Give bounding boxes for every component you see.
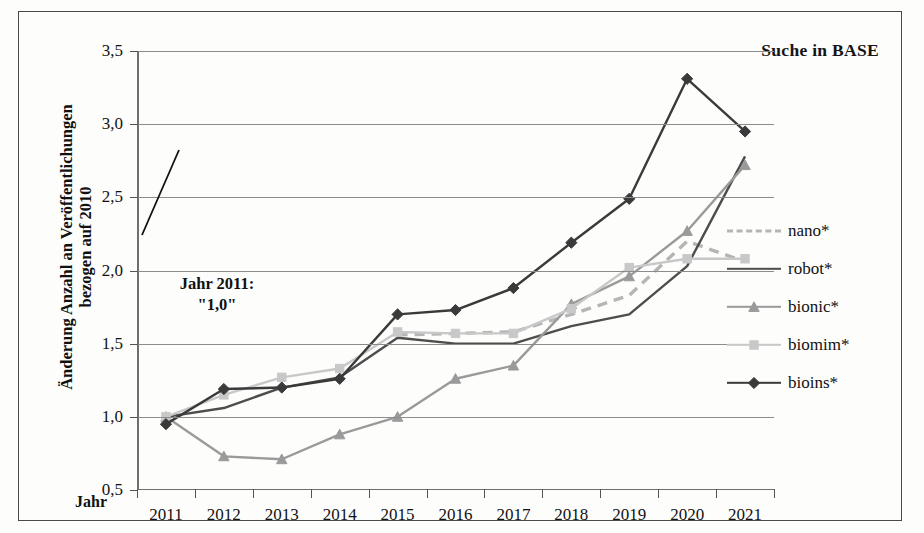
legend-marker-triangle-icon bbox=[746, 299, 762, 315]
x-tick-label: 2018 bbox=[554, 505, 588, 525]
x-tick-mark bbox=[253, 489, 254, 498]
data-point-marker bbox=[393, 328, 401, 336]
legend-marker-square-icon bbox=[746, 337, 762, 353]
x-tick-mark bbox=[542, 489, 543, 498]
x-tick-mark bbox=[137, 489, 138, 498]
data-point-marker bbox=[335, 364, 343, 372]
y-tick-mark bbox=[130, 417, 138, 418]
legend-label: nano* bbox=[781, 221, 830, 241]
data-point-marker bbox=[451, 329, 459, 337]
y-tick-mark bbox=[130, 51, 138, 52]
x-tick-label: 2014 bbox=[323, 505, 357, 525]
legend-swatch-icon bbox=[727, 260, 781, 278]
data-point-marker bbox=[750, 341, 758, 349]
legend-swatch-icon bbox=[727, 374, 781, 392]
y-tick-mark bbox=[130, 124, 138, 125]
chart-frame: Suche in BASE Änderung Anzahl an Veröffe… bbox=[18, 11, 902, 521]
y-tick-label: 0,5 bbox=[79, 480, 123, 500]
gridline bbox=[137, 271, 774, 272]
x-tick-label: 2011 bbox=[149, 505, 182, 525]
legend-label: robot* bbox=[781, 259, 832, 279]
legend-item-robot[interactable]: robot* bbox=[727, 250, 877, 288]
y-tick-label: 1,0 bbox=[79, 407, 123, 427]
y-tick-label: 2,0 bbox=[79, 261, 123, 281]
chart-title: Suche in BASE bbox=[761, 40, 879, 61]
x-tick-label: 2012 bbox=[207, 505, 241, 525]
y-tick-mark bbox=[130, 344, 138, 345]
data-point-marker bbox=[276, 382, 287, 393]
x-tick-mark bbox=[658, 489, 659, 498]
data-point-marker bbox=[278, 373, 286, 381]
data-point-marker bbox=[748, 377, 759, 388]
x-tick-label: 2016 bbox=[439, 505, 473, 525]
x-tick-mark bbox=[716, 489, 717, 498]
gridline bbox=[137, 51, 774, 52]
x-tick-mark bbox=[774, 489, 775, 498]
legend: nano*robot*bionic*biomim*bioins* bbox=[727, 212, 877, 402]
data-point-marker bbox=[749, 302, 759, 312]
y-axis-title-line1: Änderung Anzahl an Veröffentlichungen bbox=[57, 104, 76, 390]
series-biomim bbox=[162, 255, 749, 421]
x-tick-mark bbox=[427, 489, 428, 498]
x-tick-mark bbox=[195, 489, 196, 498]
y-tick-mark bbox=[130, 197, 138, 198]
x-axis-line bbox=[137, 489, 774, 491]
x-tick-label: 2017 bbox=[496, 505, 530, 525]
x-tick-mark bbox=[484, 489, 485, 498]
legend-swatch-icon bbox=[727, 336, 781, 354]
y-tick-label: 3,5 bbox=[79, 41, 123, 61]
y-tick-mark bbox=[130, 271, 138, 272]
gridline bbox=[137, 197, 774, 198]
gridline bbox=[137, 417, 774, 418]
x-tick-label: 2021 bbox=[728, 505, 762, 525]
data-point-marker bbox=[567, 304, 575, 312]
y-tick-label: 3,0 bbox=[79, 114, 123, 134]
x-tick-label: 2015 bbox=[381, 505, 415, 525]
gridline bbox=[137, 344, 774, 345]
legend-item-biomim[interactable]: biomim* bbox=[727, 326, 877, 364]
legend-swatch-icon bbox=[727, 222, 781, 240]
legend-item-bioins[interactable]: bioins* bbox=[727, 364, 877, 402]
x-tick-mark bbox=[369, 489, 370, 498]
data-point-marker bbox=[450, 304, 461, 315]
legend-label: bioins* bbox=[781, 373, 838, 393]
y-tick-label: 1,5 bbox=[79, 334, 123, 354]
legend-marker-diamond-icon bbox=[746, 375, 762, 391]
legend-label: biomim* bbox=[781, 335, 849, 355]
chart-page: Suche in BASE Änderung Anzahl an Veröffe… bbox=[0, 0, 924, 533]
series-line bbox=[166, 79, 745, 424]
x-tick-label: 2013 bbox=[265, 505, 299, 525]
data-point-marker bbox=[683, 255, 691, 263]
legend-item-bionic[interactable]: bionic* bbox=[727, 288, 877, 326]
legend-item-nano[interactable]: nano* bbox=[727, 212, 877, 250]
legend-label: bionic* bbox=[781, 297, 839, 317]
legend-swatch-icon bbox=[727, 298, 781, 316]
gridline bbox=[137, 124, 774, 125]
x-tick-label: 2020 bbox=[670, 505, 704, 525]
x-tick-label: 2019 bbox=[612, 505, 646, 525]
data-point-marker bbox=[509, 329, 517, 337]
y-tick-label: 2,5 bbox=[79, 187, 123, 207]
plot-area: 0,51,01,52,02,53,03,5 201120122013201420… bbox=[137, 51, 774, 490]
x-tick-mark bbox=[311, 489, 312, 498]
x-tick-mark bbox=[600, 489, 601, 498]
